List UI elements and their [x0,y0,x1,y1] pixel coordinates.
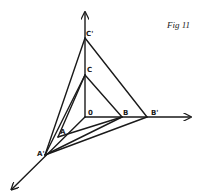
label-B: B [123,109,128,117]
figure-11-diagram: 0 B B' C C' A A' Fig 11 [0,0,200,191]
label-B-prime: B' [151,109,158,117]
label-A: A [60,128,66,136]
label-C-prime: C' [86,30,93,38]
figure-caption: Fig 11 [166,20,190,30]
edge-A-B [58,117,122,137]
label-O: 0 [88,109,93,117]
edge-Cp-Bp [85,38,147,117]
label-C: C [87,66,92,74]
label-A-prime: A' [37,150,45,158]
